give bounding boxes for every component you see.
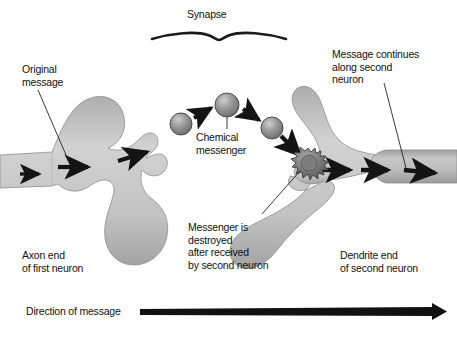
first-neuron-axon-terminal <box>0 96 168 265</box>
label-messenger-destroyed: Messenger is destroyed after received by… <box>188 221 268 271</box>
label-message-continues: Message continues along second neuron <box>332 48 419 86</box>
synapse-brace <box>152 33 286 40</box>
transfer-arrow-1 <box>194 108 211 118</box>
label-direction-of-message: Direction of message <box>26 305 121 318</box>
blob-core <box>301 155 317 171</box>
direction-of-message-arrow <box>140 303 447 320</box>
flow-arrow-6 <box>404 170 435 173</box>
messenger-sphere-3 <box>261 117 283 139</box>
label-dendrite-end: Dendrite end of second neuron <box>340 249 418 274</box>
first-neuron-body <box>0 96 168 265</box>
label-chemical-messenger: Chemical messenger <box>196 131 246 156</box>
label-synapse: Synapse <box>187 8 226 21</box>
direction-arrow-shape <box>140 303 447 320</box>
second-neuron-axon-trunk <box>370 150 457 183</box>
transfer-arrow-2 <box>243 109 259 120</box>
synapse-diagram-figure: Synapse Original message Message continu… <box>0 0 457 338</box>
messenger-sphere-1 <box>170 113 192 135</box>
label-original-message: Original message <box>22 63 63 88</box>
messenger-sphere-2 <box>215 93 239 117</box>
brace-curve <box>152 33 286 40</box>
label-axon-end: Axon end of first neuron <box>22 249 83 274</box>
